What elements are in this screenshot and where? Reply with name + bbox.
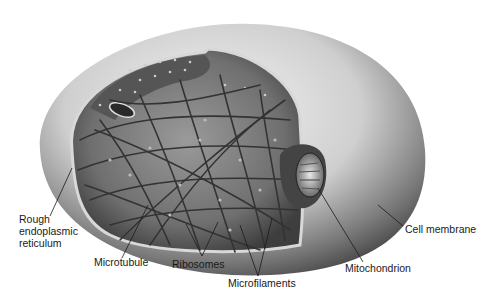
label-rough-er: Rough endoplasmic reticulum <box>19 213 99 249</box>
cell-diagram <box>0 0 490 297</box>
label-microfilaments: Microfilaments <box>228 277 296 289</box>
label-mitochondrion: Mitochondrion <box>345 262 411 274</box>
label-microtubule: Microtubule <box>94 256 148 268</box>
label-cell-membrane: Cell membrane <box>405 223 476 235</box>
label-rough-er-line3: reticulum <box>19 237 99 249</box>
label-rough-er-line2: endoplasmic <box>19 225 99 237</box>
label-rough-er-line1: Rough <box>19 213 99 225</box>
label-ribosomes: Ribosomes <box>172 258 225 270</box>
